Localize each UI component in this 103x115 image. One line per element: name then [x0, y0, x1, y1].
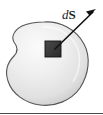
closed-surface-blob	[7, 22, 89, 105]
area-element-label-s: S	[69, 7, 76, 22]
area-element-label: dS	[62, 8, 76, 21]
surface-diagram-svg	[0, 0, 103, 115]
figure-container: dS	[0, 0, 103, 115]
area-element-patch	[45, 41, 61, 57]
